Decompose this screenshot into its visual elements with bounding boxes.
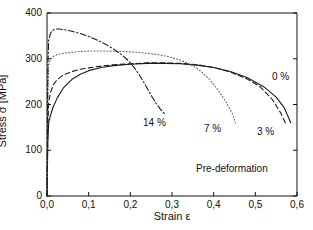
y-tick-label: 0 [16, 191, 42, 201]
y-tick-label: 300 [16, 54, 42, 64]
x-tick-label: 0,0 [40, 200, 54, 210]
series-label-14pct: 14 % [143, 117, 166, 128]
series-label-0pct: 0 % [272, 71, 289, 82]
y-tick-label: 400 [16, 8, 42, 18]
x-tick-label: 0,1 [82, 200, 96, 210]
y-tick-label: 100 [16, 145, 42, 155]
x-tick-label: 0,6 [290, 200, 304, 210]
y-tick-label: 200 [16, 100, 42, 110]
x-tick-label: 0,5 [248, 200, 262, 210]
series-label-7pct: 7 % [204, 123, 221, 134]
x-tick-label: 0,4 [207, 200, 221, 210]
curve-3pct [47, 63, 285, 196]
x-tick-label: 0,2 [123, 200, 137, 210]
x-axis-title: Strain ε [154, 210, 191, 222]
stress-strain-chart-figure: 0,00,10,20,30,40,50,6 0100200300400 Stra… [0, 0, 313, 230]
chart-plot-svg [0, 0, 313, 230]
series-label-3pct: 3 % [257, 126, 274, 137]
x-tick-label: 0,3 [165, 200, 179, 210]
y-axis-title: Stress σ [MPa] [0, 75, 8, 148]
curve-14pct [47, 29, 165, 196]
pre-deformation-annotation: Pre-deformation [196, 163, 268, 174]
